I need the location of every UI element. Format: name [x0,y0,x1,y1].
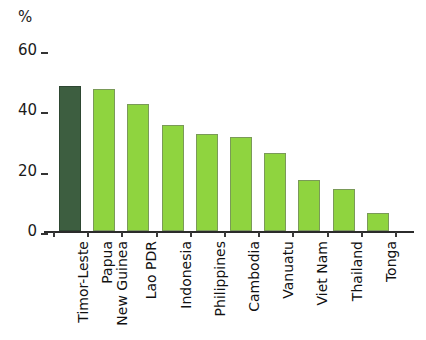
x-axis-label-line: Vanuatu [281,241,296,337]
bar [367,213,389,231]
y-axis-tick-0: 0 [0,223,48,239]
x-axis-label: Viet Nam [315,241,330,337]
y-axis-tick-mark [41,52,48,54]
bar [264,153,286,231]
y-axis-tick-20: 20 [0,163,48,179]
bar [93,89,115,231]
x-axis-tick-mark [224,232,226,237]
x-axis-tick-mark [258,232,260,237]
x-axis-label-line: Viet Nam [315,241,330,337]
y-axis-tick-mark [41,173,48,175]
y-axis-tick-mark [41,233,48,235]
x-axis-tick-mark [327,232,329,237]
x-axis-baseline [44,231,414,233]
x-axis-tick-mark [53,232,55,237]
bar [196,134,218,231]
x-axis-label: Tonga [384,241,399,337]
x-axis-label-line: Thailand [350,241,365,337]
bar [298,180,320,231]
x-axis-tick-mark [292,232,294,237]
x-axis-tick-mark [395,232,397,237]
x-axis-tick-mark [190,232,192,237]
x-axis-label: Philippines [213,241,228,337]
x-axis-tick-mark [361,232,363,237]
x-axis-label: Vanuatu [281,241,296,337]
x-axis-label-line: Timor-Leste [76,241,91,337]
x-axis-tick-mark [87,232,89,237]
x-axis-label-line: Philippines [213,241,228,337]
y-axis-tick-label: 20 [18,163,37,179]
y-axis-tick-mark [41,112,48,114]
x-axis-label-line: Tonga [384,241,399,337]
x-axis-label-line: Lao PDR [144,241,159,337]
x-axis-label: Thailand [350,241,365,337]
bar-chart: % 0204060 Timor-LestePapuaNew GuineaLao … [0,0,426,340]
x-axis-label: PapuaNew Guinea [100,241,130,337]
x-axis-label: Cambodia [247,241,262,337]
x-axis-tick-mark [156,232,158,237]
y-axis-tick-label: 0 [27,223,37,239]
bar [333,189,355,231]
plot-area [55,40,407,231]
y-axis-tick-60: 60 [0,42,48,58]
bar [162,125,184,231]
x-axis-label-line: Cambodia [247,241,262,337]
x-axis-label: Timor-Leste [76,241,91,337]
x-axis-label: Lao PDR [144,241,159,337]
bar [230,137,252,231]
y-axis-unit-label: % [18,8,32,26]
x-axis-label-line: Indonesia [179,241,194,337]
y-axis-tick-label: 40 [18,102,37,118]
y-axis-tick-40: 40 [0,102,48,118]
x-axis-label-line: New Guinea [115,241,130,337]
bar [127,104,149,231]
bar [59,86,81,231]
x-axis-label-line: Papua [100,241,115,337]
x-axis-tick-mark [121,232,123,237]
y-axis-tick-label: 60 [18,42,37,58]
x-axis-label: Indonesia [179,241,194,337]
